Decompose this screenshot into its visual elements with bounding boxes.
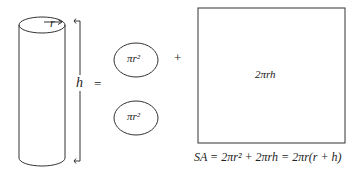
top-circle-label: πr²	[127, 52, 140, 64]
plus-sign: +	[174, 50, 181, 66]
cylinder-bottom-arc	[19, 158, 65, 166]
height-dimension	[74, 19, 80, 164]
surface-area-formula: SA = 2πr² + 2πrh = 2πr(r + h)	[194, 150, 342, 165]
bottom-circle-label: πr²	[127, 110, 140, 122]
rectangle-label: 2πrh	[255, 68, 276, 80]
cylinder	[19, 17, 65, 166]
equals-sign: =	[94, 76, 101, 92]
radius-label: r	[50, 16, 55, 31]
height-label: h	[76, 75, 83, 91]
